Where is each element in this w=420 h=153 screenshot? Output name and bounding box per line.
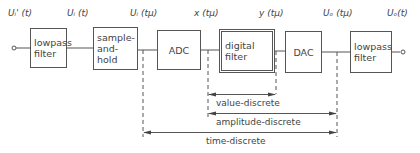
sample-and-hold-block: sample- and- hold: [93, 27, 138, 70]
block-label: lowpass filter: [31, 37, 72, 59]
signal-label-x: x (tμ): [194, 8, 218, 18]
signal-label-ui: Uᵢ (t): [67, 8, 89, 18]
dac-block: DAC: [285, 31, 322, 73]
digital-filter-block: digital filter: [219, 29, 275, 73]
signal-label-uo-tmu: Uₒ (tμ): [323, 8, 352, 18]
value-discrete-label: value-discrete: [216, 98, 280, 108]
diagram-lines: [0, 0, 420, 153]
signal-label-input: Uᵢ' (t): [8, 8, 32, 18]
input-terminal-icon: [12, 46, 16, 50]
block-label: ADC: [169, 45, 189, 56]
output-terminal-icon: [401, 50, 405, 54]
adc-block: ADC: [157, 30, 201, 70]
signal-label-output: Uₒ(t): [387, 8, 408, 18]
signal-label-y: y (tμ): [259, 8, 283, 18]
block-label: digital filter: [222, 40, 255, 62]
time-discrete-label: time-discrete: [206, 136, 266, 146]
signal-label-ui-tmu: Uᵢ (tμ): [130, 8, 157, 18]
block-label: sample- and- hold: [94, 32, 135, 65]
amplitude-discrete-label: amplitude-discrete: [216, 117, 301, 127]
lowpass-filter-input-block: lowpass filter: [30, 28, 67, 68]
lowpass-filter-output-block: lowpass filter: [350, 31, 392, 73]
block-label: DAC: [293, 47, 313, 58]
block-label: lowpass filter: [351, 41, 392, 63]
